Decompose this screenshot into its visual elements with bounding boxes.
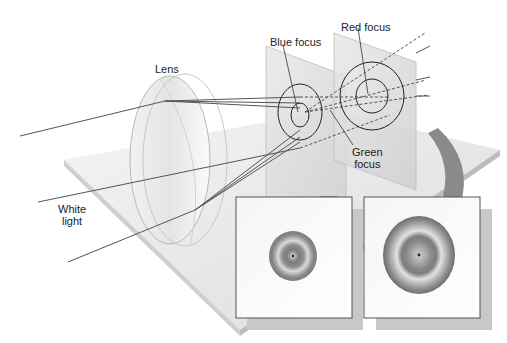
green-focus-label-line1: Green (352, 146, 383, 158)
inset-red-focus-image (364, 197, 492, 330)
white-light-label-line2: light (58, 215, 86, 227)
red-focus-label: Red focus (341, 21, 391, 33)
blue-focus-label: Blue focus (270, 36, 321, 48)
white-light-label-line1: White (58, 203, 86, 215)
white-light-label: White light (58, 203, 86, 227)
green-focus-label-line2: focus (352, 158, 383, 170)
inset-blue-focus-image (236, 197, 363, 330)
green-focus-label: Green focus (352, 146, 383, 170)
lens-label: Lens (155, 63, 179, 75)
chromatic-aberration-diagram (0, 0, 507, 343)
